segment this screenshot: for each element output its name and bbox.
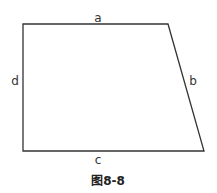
trapezoid-diagram: [0, 0, 217, 193]
side-label-c: c: [95, 154, 102, 166]
side-label-b: b: [189, 75, 197, 87]
trapezoid-shape: [23, 24, 204, 151]
figure-caption: 图8-8: [91, 175, 125, 187]
side-label-a: a: [94, 12, 101, 24]
side-label-d: d: [11, 75, 19, 87]
